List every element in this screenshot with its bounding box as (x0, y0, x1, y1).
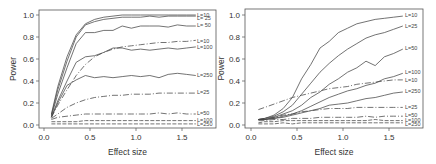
x-tick-label: 1.5 (383, 133, 395, 142)
series-label: L=250 (405, 121, 420, 127)
y-tick-label: 0.8 (229, 33, 241, 42)
series-label: L=250 (197, 121, 212, 127)
x-tick-label: 0.5 (291, 133, 303, 142)
plot-frame (245, 9, 423, 128)
figure: 0.00.20.40.60.81.00.00.51.01.5Effect siz… (0, 0, 436, 164)
y-tick-label: 0.4 (229, 77, 241, 86)
y-tick-label: 0.6 (229, 55, 241, 64)
series-label: L=25 (405, 23, 417, 29)
y-axis-label: Power (8, 57, 18, 81)
plot-frame (39, 10, 216, 128)
series-line (258, 120, 402, 123)
series-line (51, 15, 195, 114)
x-tick-label: 0.0 (38, 133, 50, 142)
series-label: L=100 (405, 69, 420, 75)
y-tick-label: 0.8 (23, 33, 35, 42)
series-label: L=250 (405, 88, 420, 94)
y-tick-label: 1.0 (229, 11, 241, 20)
x-tick-label: 0.5 (84, 133, 96, 142)
series-line (258, 49, 402, 119)
series-line (51, 25, 195, 116)
x-tick-label: 0.0 (245, 133, 257, 142)
series-label: L=25 (405, 104, 417, 110)
y-tick-label: 0.0 (229, 121, 241, 130)
series-line (51, 16, 195, 115)
x-tick-label: 1.0 (337, 133, 349, 142)
y-axis-label: Power (216, 56, 226, 80)
series-label: L=25 (197, 89, 209, 95)
series-line (51, 93, 195, 118)
series-label: L=10 (405, 12, 417, 18)
x-axis-label: Effect size (108, 147, 147, 157)
y-tick-label: 0.6 (23, 55, 35, 64)
x-tick-label: 1.5 (176, 133, 188, 142)
y-tick-label: 0.0 (23, 121, 35, 130)
series-label: L=50 (405, 45, 417, 51)
series-line (258, 16, 402, 119)
x-tick-label: 1.0 (130, 133, 142, 142)
series-label: L=100 (197, 44, 212, 50)
y-tick-label: 0.4 (23, 77, 35, 86)
series-label: L=250 (197, 72, 212, 78)
y-tick-label: 0.2 (229, 99, 241, 108)
right-panel: 0.00.20.40.60.81.00.00.51.01.5Effect siz… (216, 9, 423, 157)
series-label: L= 25 (197, 15, 211, 21)
series-line (51, 113, 195, 120)
left-panel: 0.00.20.40.60.81.00.00.51.01.5Effect siz… (8, 10, 216, 157)
series-line (51, 121, 195, 122)
series-label: L=50 (197, 110, 209, 116)
y-tick-label: 0.2 (23, 99, 35, 108)
series-label: L=10 (405, 77, 417, 83)
y-tick-label: 1.0 (23, 11, 35, 20)
x-axis-label: Effect size (314, 147, 353, 157)
series-label: L= 50 (197, 22, 211, 28)
series-line (258, 123, 402, 124)
